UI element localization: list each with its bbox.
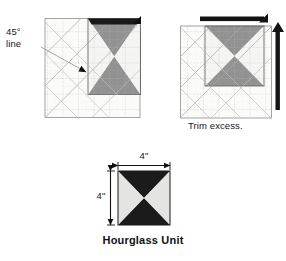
height-dimension	[107, 171, 115, 225]
panel-step-2	[180, 0, 284, 118]
right-trim-arrow	[272, 22, 284, 110]
instruction-diagram	[0, 0, 286, 261]
top-trim-arrow	[200, 14, 268, 23]
panel-step-1	[41, 0, 141, 180]
ruler-grid-over-block-right	[205, 26, 264, 86]
width-dimension	[118, 162, 170, 170]
figure-caption: Hourglass Unit	[102, 234, 183, 246]
figure-canvas: 45° line Trim excess. 4" 4" Hourglass Un…	[0, 0, 286, 261]
hourglass-unit	[118, 171, 170, 225]
label-trim-excess: Trim excess.	[188, 120, 243, 132]
label-45-degree-line: 45° line	[6, 26, 21, 49]
label-width-dimension: 4"	[140, 150, 149, 162]
label-height-dimension: 4"	[97, 190, 106, 202]
trim-strip-left	[88, 19, 141, 25]
panel-step-3	[107, 162, 170, 225]
